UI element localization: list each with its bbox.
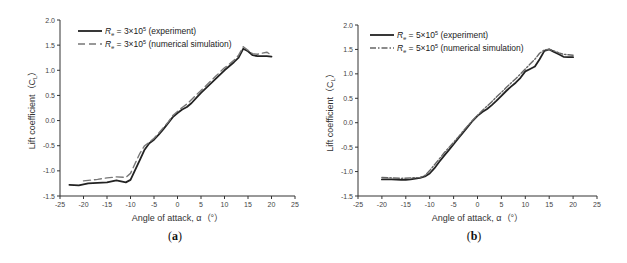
x-tick-label: -25: [55, 201, 65, 208]
chart-panel-a: -1.5-1.0-0.50.00.51.01.52.0-25-20-15-10-…: [27, 17, 299, 244]
figure-canvas: -1.5-1.0-0.50.00.51.01.52.0-25-20-15-10-…: [0, 0, 627, 263]
series-line-solid: [69, 49, 271, 186]
panel-caption: (b): [467, 229, 482, 243]
x-tick-label: 15: [545, 201, 553, 208]
y-axis-label: Lift coefficient（CL）: [27, 67, 38, 150]
x-tick-label: -25: [353, 201, 363, 208]
x-tick-label: -5: [450, 201, 456, 208]
x-tick-label: -20: [377, 201, 387, 208]
legend-label: Re = 5×105 (experiment): [397, 30, 488, 41]
x-tick-label: 5: [199, 201, 203, 208]
y-tick-label: 2.0: [45, 17, 55, 24]
x-tick-label: 5: [499, 201, 503, 208]
legend-label: Re = 5×105 (numerical simulation): [397, 43, 524, 54]
y-tick-label: 1.0: [343, 70, 353, 77]
y-tick-label: 0.5: [45, 92, 55, 99]
y-tick-label: -1.0: [341, 168, 353, 175]
x-tick-label: 15: [244, 201, 252, 208]
x-tick-label: 20: [268, 201, 276, 208]
y-tick-label: 1.0: [45, 67, 55, 74]
x-tick-label: -20: [78, 201, 88, 208]
y-tick-label: -1.0: [43, 167, 55, 174]
x-tick-label: -5: [151, 201, 157, 208]
x-tick-label: 10: [521, 201, 529, 208]
x-axis-label: Angle of attack, α（°）: [132, 213, 223, 223]
x-tick-label: -15: [401, 201, 411, 208]
x-tick-label: 20: [569, 201, 577, 208]
y-tick-label: 1.5: [45, 42, 55, 49]
x-tick-label: -10: [125, 201, 135, 208]
legend-label: Re = 3×105 (numerical simulation): [105, 39, 232, 50]
x-tick-label: -15: [102, 201, 112, 208]
chart-panel-b: -1.5-1.0-0.50.00.51.01.52.0-25-20-15-10-…: [325, 22, 601, 244]
legend-label: Re = 3×105 (experiment): [105, 26, 196, 37]
series-line-dashdot: [382, 49, 573, 178]
y-tick-label: -0.5: [43, 142, 55, 149]
y-tick-label: 2.0: [343, 22, 353, 29]
y-tick-label: 0.0: [45, 117, 55, 124]
y-tick-label: 0.5: [343, 95, 353, 102]
x-tick-label: 0: [176, 201, 180, 208]
y-axis-label: Lift coefficient（CL）: [325, 69, 336, 152]
y-tick-label: -0.5: [341, 144, 353, 151]
x-axis-label: Angle of attack, α（°）: [432, 213, 523, 223]
x-tick-label: 0: [476, 201, 480, 208]
y-tick-label: 1.5: [343, 46, 353, 53]
x-tick-label: 25: [593, 201, 601, 208]
x-tick-label: 25: [291, 201, 299, 208]
y-tick-label: -1.5: [341, 193, 353, 200]
x-tick-label: -10: [425, 201, 435, 208]
y-tick-label: -1.5: [43, 193, 55, 200]
panel-caption: (a): [168, 229, 182, 243]
x-tick-label: 10: [221, 201, 229, 208]
y-tick-label: 0.0: [343, 119, 353, 126]
